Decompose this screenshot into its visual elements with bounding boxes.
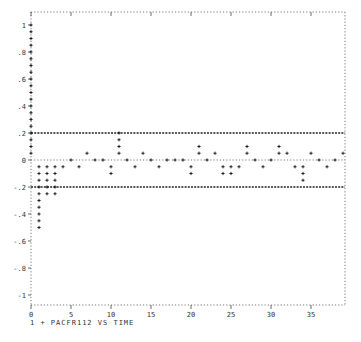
- svg-text:.6: .6: [18, 76, 26, 84]
- svg-text:35: 35: [307, 311, 315, 319]
- svg-text:0: 0: [22, 157, 26, 165]
- data-points: [29, 23, 344, 229]
- svg-text:25: 25: [227, 311, 235, 319]
- svg-text:-.4: -.4: [13, 211, 26, 219]
- svg-text:0: 0: [29, 311, 33, 319]
- y-axis-ticks: 1.8.6.4.20-.2-.4-.6-.8-1: [13, 22, 31, 300]
- svg-text:30: 30: [267, 311, 275, 319]
- svg-text:-.8: -.8: [13, 265, 26, 273]
- x-axis-ticks: 05101520253035: [29, 12, 315, 319]
- svg-text:.4: .4: [18, 103, 26, 111]
- chart-caption: 1 + PACFR112 VS TIME: [30, 319, 134, 327]
- plot-frame: [31, 12, 345, 305]
- svg-text:-1: -1: [18, 292, 26, 300]
- svg-text:-.2: -.2: [13, 184, 26, 192]
- pacf-chart: 1.8.6.4.20-.2-.4-.6-.8-1 05101520253035: [0, 0, 361, 342]
- svg-text:.2: .2: [18, 130, 26, 138]
- svg-text:.8: .8: [18, 49, 26, 57]
- svg-text:-.6: -.6: [13, 238, 26, 246]
- svg-text:20: 20: [187, 311, 195, 319]
- svg-text:10: 10: [107, 311, 115, 319]
- svg-text:1: 1: [22, 22, 26, 30]
- svg-text:15: 15: [147, 311, 155, 319]
- svg-text:5: 5: [69, 311, 73, 319]
